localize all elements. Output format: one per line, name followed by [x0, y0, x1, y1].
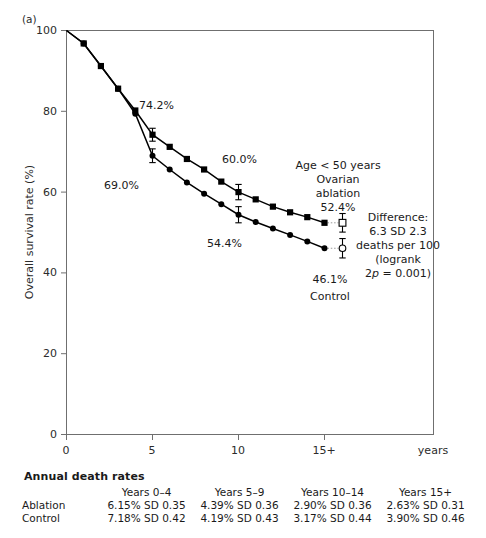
data-point-square	[167, 144, 173, 150]
table-cell-ablation-2: 2.90% SD 0.36	[286, 498, 379, 511]
table-col-header-2: Years 10–14	[286, 485, 379, 498]
y-axis-title: Overall survival rate (%)	[23, 165, 36, 299]
annot-diff-line4: (logrank	[375, 253, 421, 266]
data-point-open-circle	[339, 245, 346, 252]
data-point-square	[321, 220, 327, 226]
data-point-square	[218, 179, 224, 185]
annot-diff-line2: 6.3 SD 2.3	[369, 225, 426, 238]
data-point-circle	[218, 201, 224, 207]
table-cell-control-2: 3.17% SD 0.44	[286, 511, 379, 524]
y-tick-label-100: 100	[36, 24, 57, 37]
annot-control-label: Control	[310, 290, 350, 303]
survival-figure: (a) 0 20 40 60 80 100 Overall survival r…	[0, 0, 486, 538]
annot-diff-line3: deaths per 100	[356, 239, 440, 252]
y-tick-label-20: 20	[43, 347, 57, 360]
diff-p-suffix: = 0.001)	[379, 267, 431, 280]
data-point-circle	[201, 191, 207, 197]
data-point-circle	[98, 63, 104, 69]
annot-group-value: 52.4%	[321, 201, 356, 214]
panel-letter: (a)	[22, 13, 37, 25]
table-cell-ablation-3: 2.63% SD 0.31	[379, 498, 472, 511]
series-layer	[67, 31, 346, 258]
data-point-circle	[270, 225, 276, 231]
table-title: Annual death rates	[24, 470, 472, 483]
data-point-square	[304, 214, 310, 220]
annot-ablation-5yr: 74.2%	[139, 99, 174, 112]
curve-line	[67, 31, 325, 249]
y-tick-label-60: 60	[43, 186, 57, 199]
table-cell-control-3: 3.90% SD 0.46	[379, 511, 472, 524]
data-point-circle	[304, 238, 310, 244]
data-point-circle	[322, 245, 328, 251]
table-col-header-0: Years 0–4	[100, 485, 193, 498]
table-cell-ablation-0: 6.15% SD 0.35	[100, 498, 193, 511]
x-axis-unit-label: years	[418, 444, 449, 457]
table-col-header-1: Years 5–9	[193, 485, 286, 498]
data-point-circle	[184, 179, 190, 185]
data-point-circle	[253, 219, 259, 225]
series-control	[67, 31, 346, 258]
table-row: Ablation 6.15% SD 0.35 4.39% SD 0.36 2.9…	[22, 498, 472, 511]
curve-line	[67, 31, 325, 223]
x-tick-label-15p: 15+	[312, 444, 335, 457]
data-point-square	[184, 156, 190, 162]
survival-chart-svg: (a) 0 20 40 60 80 100 Overall survival r…	[0, 0, 486, 538]
annot-diff-line1: Difference:	[368, 211, 428, 224]
table-corner-cell	[22, 485, 100, 498]
table-cell-control-1: 4.19% SD 0.43	[193, 511, 286, 524]
data-point-square	[201, 166, 207, 172]
annot-group-line2: Ovarian	[316, 173, 359, 186]
table-cell-ablation-1: 4.39% SD 0.36	[193, 498, 286, 511]
y-tick-label-40: 40	[43, 266, 57, 279]
y-axis-ticks	[61, 31, 66, 435]
data-point-square	[270, 204, 276, 210]
data-point-circle	[287, 232, 293, 238]
table-row-label-ablation: Ablation	[22, 498, 100, 511]
series-ablation	[67, 31, 346, 233]
y-tick-label-80: 80	[43, 105, 57, 118]
x-tick-label-10: 10	[231, 444, 245, 457]
annot-group-line1: Age < 50 years	[295, 159, 381, 172]
annot-control-value: 46.1%	[313, 273, 348, 286]
diff-p-italic: p	[371, 267, 379, 280]
table-cell-control-0: 7.18% SD 0.42	[100, 511, 193, 524]
table-col-header-3: Years 15+	[379, 485, 472, 498]
y-tick-label-0: 0	[50, 428, 57, 441]
annual-death-rates-table: Annual death rates Years 0–4 Years 5–9 Y…	[22, 470, 472, 524]
data-point-open-square	[339, 219, 346, 226]
annot-control-5yr: 69.0%	[104, 179, 139, 192]
annot-ablation-10yr: 60.0%	[222, 153, 257, 166]
x-tick-label-5: 5	[149, 444, 156, 457]
data-point-circle	[132, 111, 138, 117]
annot-diff-line5: 2p = 0.001)	[365, 267, 431, 280]
data-point-square	[253, 196, 259, 202]
x-axis-ticks	[67, 435, 325, 441]
table-row-label-control: Control	[22, 511, 100, 524]
annot-group-line3: ablation	[316, 187, 361, 200]
table-header-row: Years 0–4 Years 5–9 Years 10–14 Years 15…	[22, 485, 472, 498]
data-point-circle	[81, 40, 87, 46]
data-point-circle	[115, 86, 121, 92]
x-tick-label-0: 0	[63, 444, 70, 457]
diff-p-prefix: 2	[365, 267, 372, 280]
data-point-circle	[167, 166, 173, 172]
table-row: Control 7.18% SD 0.42 4.19% SD 0.43 3.17…	[22, 511, 472, 524]
annot-control-10yr: 54.4%	[207, 237, 242, 250]
data-point-square	[287, 209, 293, 215]
